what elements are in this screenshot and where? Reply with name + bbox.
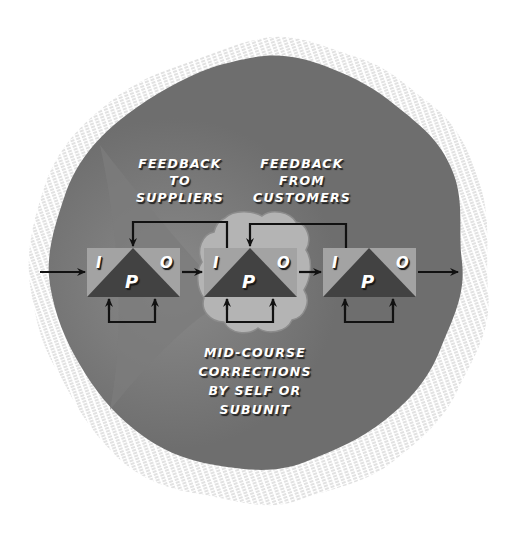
unit-1-process-label: P (125, 271, 138, 292)
unit-1-input-label: I (96, 254, 102, 272)
unit-3-input-label: I (332, 254, 338, 272)
unit-3-process-label: P (361, 271, 374, 292)
unit-2-process-label: P (242, 271, 255, 292)
unit-2-input-label: I (213, 254, 219, 272)
label-feedback-to-suppliers: FEEDBACK TO SUPPLIERS (125, 155, 235, 206)
label-mid-course-corrections: MID-COURSE CORRECTIONS BY SELF OR SUBUNI… (185, 343, 325, 419)
diagram-canvas (0, 0, 512, 541)
unit-1-output-label: O (160, 254, 173, 272)
label-feedback-from-customers: FEEDBACK FROM CUSTOMERS (246, 155, 358, 206)
unit-3-output-label: O (396, 254, 409, 272)
unit-2-output-label: O (277, 254, 290, 272)
